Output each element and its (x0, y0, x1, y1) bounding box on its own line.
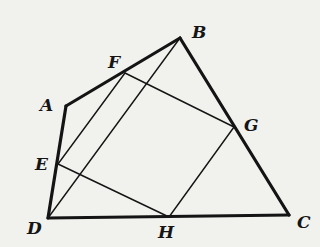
segment-ef (58, 73, 125, 164)
point-label-a: A (38, 95, 53, 115)
point-label-e: E (34, 154, 49, 174)
point-label-h: H (157, 222, 175, 242)
point-label-d: D (26, 218, 42, 238)
point-label-c: C (297, 212, 311, 232)
side-da (48, 106, 66, 218)
point-label-f: F (107, 52, 122, 72)
side-ab (66, 38, 180, 106)
segment-gh (169, 127, 234, 217)
side-bc (180, 38, 289, 215)
side-cd (48, 215, 289, 218)
geometry-diagram: ABCDEFGH (0, 0, 320, 247)
diagram-canvas: ABCDEFGH (0, 0, 320, 247)
segment-he (58, 164, 169, 217)
point-label-b: B (191, 22, 206, 42)
point-label-g: G (244, 115, 259, 135)
